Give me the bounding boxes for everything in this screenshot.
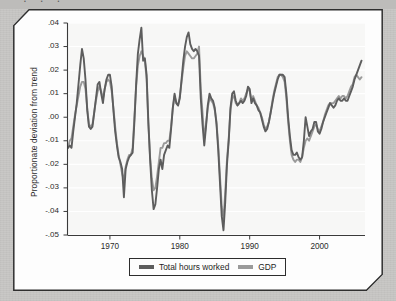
legend-swatch-gdp — [238, 265, 253, 268]
x-axis-tick-label: 1990 — [230, 242, 270, 251]
legend-entry-total-hours-worked[interactable]: Total hours worked — [139, 262, 229, 272]
legend-swatch-total-hours-worked — [139, 265, 154, 268]
x-axis-tick-label: 2000 — [300, 242, 340, 251]
chart-legend: Total hours worked GDP — [129, 258, 286, 276]
x-axis-tick-label: 1980 — [160, 242, 200, 251]
page-caption-strip: · . . . · — [0, 0, 396, 9]
legend-label-total-hours-worked: Total hours worked — [159, 262, 229, 272]
caption-fragment-text: · . . . · — [6, 0, 82, 5]
legend-label-gdp: GDP — [258, 262, 276, 272]
chart: Proportionate deviation from trend .04.0… — [13, 9, 383, 291]
legend-entry-gdp[interactable]: GDP — [238, 262, 276, 272]
x-axis-tick-label: 1970 — [90, 242, 130, 251]
